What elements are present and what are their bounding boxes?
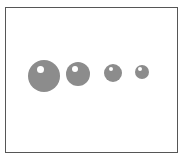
sphere-highlight-1: [37, 66, 44, 73]
sphere-marker-4: [135, 65, 149, 79]
sphere-marker-3: [104, 64, 122, 82]
sphere-highlight-2: [72, 66, 78, 72]
sphere-marker-2: [66, 62, 90, 86]
sphere-highlight-3: [109, 67, 113, 71]
sphere-highlight-4: [138, 67, 142, 71]
sphere-marker-1: [28, 60, 60, 92]
figure-root: Sphere Size Series: [0, 0, 188, 163]
panel-surface: [6, 8, 177, 152]
panel-frame: [5, 7, 178, 153]
